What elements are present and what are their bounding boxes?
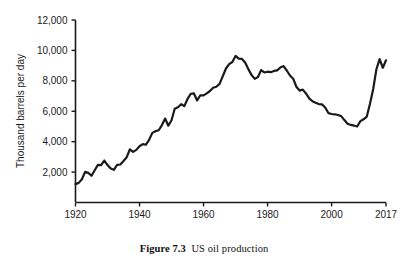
- x-axis-tick-labels: 192019401960198020002017: [64, 209, 397, 220]
- x-tick-label: 2000: [320, 209, 343, 220]
- x-tick-label: 1920: [64, 209, 87, 220]
- figure-container: 2,0004,0006,0008,00010,00012,000 1920194…: [0, 0, 408, 263]
- y-tick-label: 6,000: [42, 106, 67, 117]
- x-tick-label: 1980: [256, 209, 279, 220]
- figure-caption: Figure 7.3 US oil production: [0, 243, 408, 254]
- oil-production-chart: 2,0004,0006,0008,00010,00012,000 1920194…: [0, 0, 408, 263]
- y-tick-label: 10,000: [37, 45, 68, 56]
- figure-caption-body: US oil production: [191, 243, 268, 254]
- y-tick-label: 2,000: [42, 167, 67, 178]
- figure-caption-label: Figure 7.3: [140, 243, 186, 254]
- x-tick-label: 2017: [375, 209, 398, 220]
- y-tick-label: 12,000: [37, 15, 68, 26]
- x-tick-label: 1960: [192, 209, 215, 220]
- y-tick-label: 4,000: [42, 136, 67, 147]
- y-tick-label: 8,000: [42, 75, 67, 86]
- x-tick-label: 1940: [128, 209, 151, 220]
- data-series-line: [76, 56, 387, 184]
- y-axis-title: Thousand barrels per day: [15, 54, 26, 168]
- y-axis-tick-labels: 2,0004,0006,0008,00010,00012,000: [37, 15, 68, 178]
